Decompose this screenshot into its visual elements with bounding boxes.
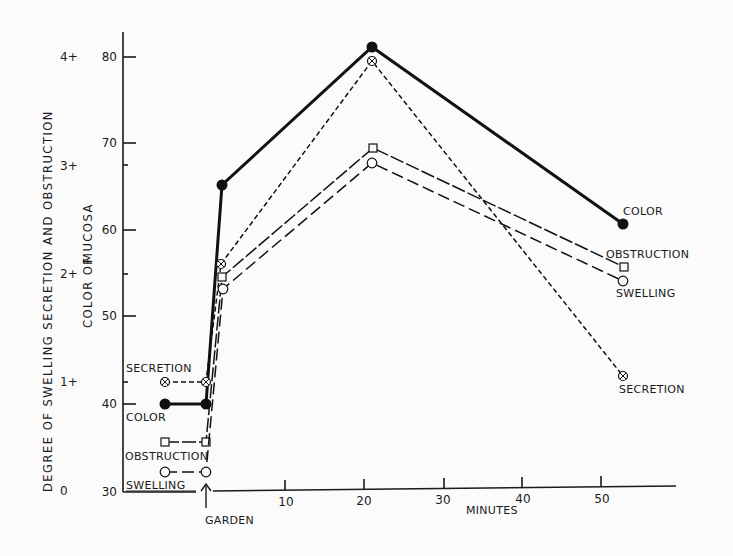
series-obstruction (161, 144, 628, 446)
svg-text:2+: 2+ (60, 267, 78, 281)
series-swelling (160, 158, 628, 477)
svg-text:10: 10 (278, 495, 293, 509)
label-left-swelling: SWELLING (126, 479, 185, 492)
garden-arrow-icon (201, 484, 211, 508)
label-left-secretion: SECRETION (126, 362, 192, 375)
label-right-color: COLOR (623, 205, 663, 218)
y-tick-labels: 80 70 60 50 40 30 (102, 50, 117, 499)
svg-text:30: 30 (102, 485, 117, 499)
y-axis-title-outer: DEGREE OF SWELLING SECRETION AND OBSTRUC… (41, 110, 55, 492)
x-axis (213, 476, 676, 491)
svg-text:70: 70 (102, 136, 117, 150)
x-tick-labels: 10 20 30 40 50 (278, 492, 609, 509)
svg-text:80: 80 (102, 50, 117, 64)
svg-text:30: 30 (435, 493, 450, 507)
svg-text:40: 40 (102, 397, 117, 411)
svg-text:1+: 1+ (60, 375, 78, 389)
label-left-color: COLOR (126, 411, 166, 424)
svg-text:3+: 3+ (60, 159, 78, 173)
y-secondary-tick-labels: 4+ 3+ 2+ 1+ 0 (60, 50, 78, 498)
svg-text:50: 50 (594, 492, 609, 506)
svg-text:50: 50 (102, 309, 117, 323)
label-right-obstruction: OBSTRUCTION (606, 248, 689, 261)
svg-text:20: 20 (356, 494, 371, 508)
svg-text:60: 60 (102, 223, 117, 237)
label-left-obstruction: OBSTRUCTION (125, 450, 208, 463)
y-axis-title-inner-color: COLOR OF (81, 257, 95, 328)
series-color (160, 42, 629, 410)
garden-label: GARDEN (205, 514, 254, 527)
svg-text:4+: 4+ (60, 50, 78, 64)
label-right-swelling: SWELLING (616, 287, 675, 300)
series-secretion (161, 57, 628, 387)
chart-canvas: 80 70 60 50 40 30 4+ 3+ 2+ 1+ 0 10 20 30… (0, 0, 733, 556)
x-axis-title: MINUTES (466, 504, 518, 517)
svg-text:0: 0 (60, 484, 68, 498)
y-axis-title-inner-mucosa: MUCOSA (81, 203, 95, 263)
label-right-secretion: SECRETION (619, 383, 685, 396)
